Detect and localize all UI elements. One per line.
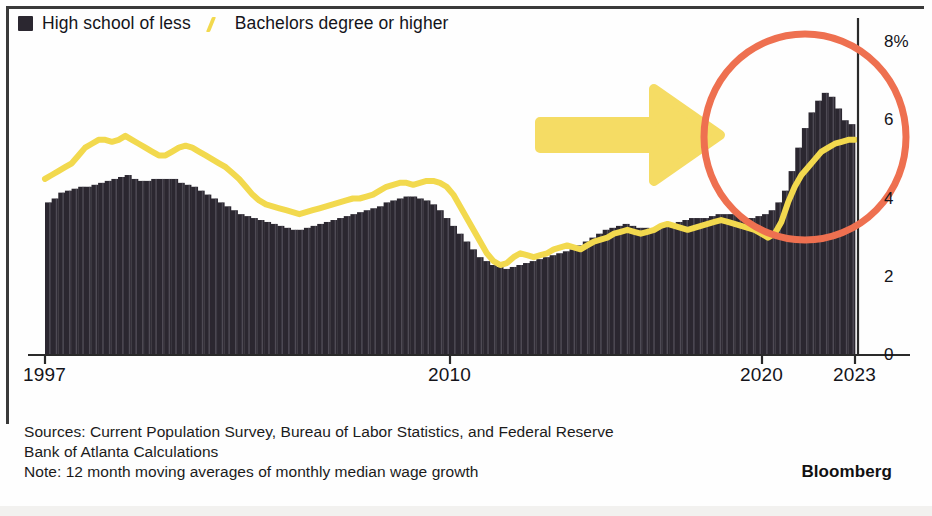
bar: [204, 195, 211, 355]
bar-stripe: [388, 202, 389, 355]
bar-stripe: [620, 226, 621, 355]
bar: [304, 228, 311, 355]
bar-stripe: [142, 181, 143, 355]
bar: [822, 93, 829, 355]
bar: [516, 265, 523, 355]
bar: [656, 228, 663, 355]
bar-stripe: [235, 210, 236, 355]
chart-svg: [0, 0, 932, 400]
bar: [828, 97, 835, 355]
bar: [198, 191, 205, 355]
bar-stripe: [753, 218, 754, 355]
bar: [457, 234, 464, 355]
note-line: Note: 12 month moving averages of monthl…: [24, 462, 904, 482]
bar-stripe: [441, 210, 442, 355]
bar-stripe: [447, 218, 448, 355]
bar-stripe: [454, 226, 455, 355]
bar: [257, 220, 264, 355]
bar: [410, 197, 417, 355]
bar: [158, 179, 165, 355]
bar-stripe: [667, 226, 668, 355]
bar-stripe: [607, 230, 608, 355]
bar: [596, 234, 603, 355]
bar: [138, 181, 145, 355]
bar-stripe: [275, 224, 276, 355]
bar-stripe: [760, 216, 761, 355]
bar-stripe: [62, 193, 63, 355]
bar: [178, 183, 185, 355]
bar-stripe: [394, 200, 395, 355]
bar-stripe: [494, 265, 495, 355]
bar-stripe: [321, 224, 322, 355]
bar-stripe: [726, 214, 727, 355]
bar: [171, 179, 178, 355]
bar-stripe: [852, 124, 853, 355]
chart-plot-area: 199720102020202302468%: [0, 0, 932, 400]
bar-stripe: [109, 181, 110, 355]
bar: [52, 199, 59, 356]
bar: [689, 218, 696, 355]
bar: [649, 230, 656, 355]
bar-stripe: [693, 218, 694, 355]
bar: [503, 269, 510, 355]
bar: [231, 210, 238, 355]
bar-stripe: [301, 230, 302, 355]
bar-stripe: [600, 234, 601, 355]
bar-stripe: [461, 234, 462, 355]
bar-stripe: [135, 179, 136, 355]
bar-stripe: [202, 191, 203, 355]
bar: [251, 218, 258, 355]
bar-stripe: [189, 185, 190, 355]
bar-stripe: [328, 222, 329, 355]
bar-stripe: [228, 206, 229, 355]
bar-stripe: [819, 101, 820, 355]
y-axis-label: 4: [884, 189, 893, 209]
bar: [443, 218, 450, 355]
bar: [370, 208, 377, 355]
bar: [742, 218, 749, 355]
bar-stripe: [222, 202, 223, 355]
bar-stripe: [567, 251, 568, 355]
bar: [589, 238, 596, 355]
bar-stripe: [295, 230, 296, 355]
bar-stripe: [793, 171, 794, 355]
bar-stripe: [116, 179, 117, 355]
bar-stripe: [706, 218, 707, 355]
bar: [550, 255, 557, 355]
bar-stripe: [813, 112, 814, 355]
bar-stripe: [700, 218, 701, 355]
bar: [350, 214, 357, 355]
bar: [291, 230, 298, 355]
bar-stripe: [574, 249, 575, 355]
bar: [809, 112, 816, 355]
bar-stripe: [554, 255, 555, 355]
bar: [58, 193, 65, 355]
bloomberg-logo: Bloomberg: [801, 462, 892, 482]
bar-stripe: [149, 181, 150, 355]
bar-stripe: [660, 228, 661, 355]
bar: [297, 230, 304, 355]
bar: [676, 222, 683, 355]
bar: [364, 210, 371, 355]
bar-stripe: [82, 187, 83, 355]
bar-stripe: [434, 204, 435, 355]
bar-stripe: [49, 202, 50, 355]
bar-stripe: [594, 238, 595, 355]
bar-stripe: [428, 200, 429, 355]
bar-stripe: [175, 179, 176, 355]
bar-stripe: [680, 222, 681, 355]
bar: [404, 197, 411, 355]
bar-stripe: [713, 216, 714, 355]
bar-stripe: [368, 210, 369, 355]
bar: [470, 249, 477, 355]
bar: [709, 216, 716, 355]
bar: [450, 226, 457, 355]
bar: [536, 259, 543, 355]
bar-stripe: [89, 187, 90, 355]
bar-stripe: [361, 212, 362, 355]
bar: [490, 265, 497, 355]
bar: [543, 257, 550, 355]
bar: [191, 187, 198, 355]
bar: [244, 216, 251, 355]
bar-stripe: [268, 222, 269, 355]
